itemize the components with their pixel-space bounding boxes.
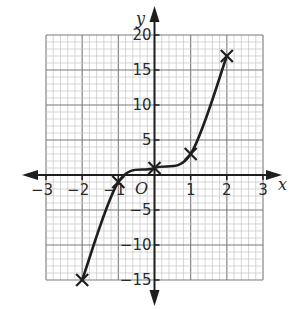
y-tick-label: −10	[120, 236, 152, 254]
cubic-graph: −3−2−11232015105−5−10−15 x y O	[0, 0, 300, 309]
axes	[22, 6, 282, 306]
x-tick-label: 2	[222, 181, 232, 199]
y-tick-label: −15	[120, 271, 152, 289]
tick-labels: −3−2−11232015105−5−10−15	[31, 26, 268, 289]
x-tick-label: −3	[31, 181, 53, 199]
y-tick-label: 15	[132, 61, 151, 79]
y-tick-label: 20	[132, 26, 151, 44]
origin-label: O	[135, 179, 148, 198]
x-tick-label: −2	[67, 181, 89, 199]
y-axis-label: y	[135, 9, 146, 28]
x-tick-label: 3	[258, 181, 268, 199]
y-tick-label: 10	[132, 96, 151, 114]
x-tick-label: 1	[186, 181, 196, 199]
y-tick-label: −5	[129, 201, 151, 219]
x-axis-label: x	[278, 175, 287, 194]
y-tick-label: 5	[142, 131, 152, 149]
